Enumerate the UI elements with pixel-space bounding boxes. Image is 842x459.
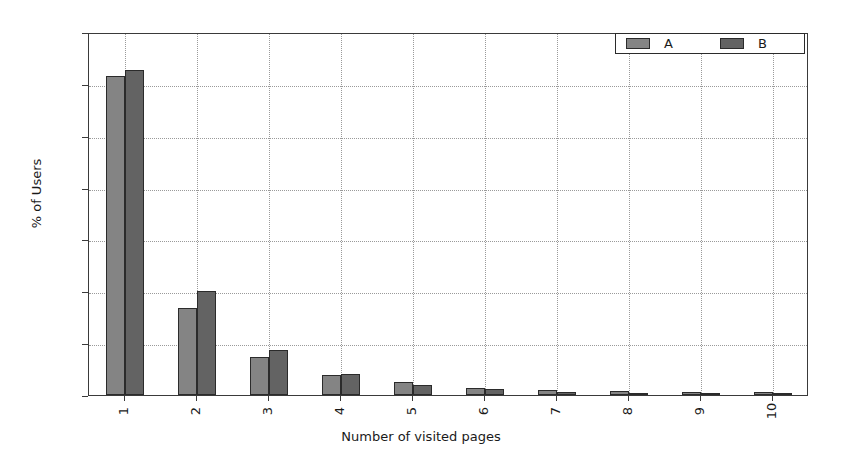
bar-a-6 bbox=[466, 388, 485, 395]
x-tick-label-10: 10 bbox=[765, 396, 779, 426]
bar-a-1 bbox=[106, 76, 125, 395]
bar-a-5 bbox=[394, 382, 413, 395]
bar-b-6 bbox=[485, 389, 504, 395]
gridline-vertical bbox=[701, 34, 702, 395]
plot-area bbox=[88, 33, 808, 396]
chart-figure: 010203040506070 % of Users 12345678910 N… bbox=[0, 0, 842, 459]
bar-a-3 bbox=[250, 357, 269, 395]
x-tick-label-1: 1 bbox=[117, 396, 131, 426]
bar-a-8 bbox=[610, 391, 629, 395]
bar-b-10 bbox=[773, 393, 792, 395]
chart-legend[interactable]: AB bbox=[615, 33, 805, 54]
gridline-vertical bbox=[557, 34, 558, 395]
gridline-vertical bbox=[341, 34, 342, 395]
gridline-vertical bbox=[269, 34, 270, 395]
bar-a-10 bbox=[754, 392, 773, 395]
x-tick-label-2: 2 bbox=[189, 396, 203, 426]
legend-label-b: B bbox=[758, 37, 767, 50]
x-tick-label-7: 7 bbox=[549, 396, 563, 426]
gridline-vertical bbox=[629, 34, 630, 395]
x-axis: 12345678910 bbox=[0, 396, 842, 459]
legend-entry-b[interactable]: B bbox=[710, 37, 804, 50]
legend-entry-a[interactable]: A bbox=[616, 37, 710, 50]
x-tick-label-3: 3 bbox=[261, 396, 275, 426]
y-axis: 010203040506070 bbox=[0, 0, 88, 459]
gridline-vertical bbox=[773, 34, 774, 395]
bar-b-5 bbox=[413, 385, 432, 395]
x-tick-label-5: 5 bbox=[405, 396, 419, 426]
bar-b-9 bbox=[701, 393, 720, 395]
x-tick-label-9: 9 bbox=[693, 396, 707, 426]
x-axis-title: Number of visited pages bbox=[0, 429, 842, 444]
bar-b-3 bbox=[269, 350, 288, 395]
legend-label-a: A bbox=[664, 37, 673, 50]
bar-a-9 bbox=[682, 392, 701, 395]
bar-a-7 bbox=[538, 390, 557, 395]
bar-a-2 bbox=[178, 308, 197, 395]
gridline-vertical bbox=[485, 34, 486, 395]
x-tick-label-6: 6 bbox=[477, 396, 491, 426]
bar-b-8 bbox=[629, 393, 648, 395]
legend-swatch-a-icon bbox=[626, 38, 650, 49]
bar-b-7 bbox=[557, 392, 576, 395]
x-tick-label-8: 8 bbox=[621, 396, 635, 426]
bar-b-2 bbox=[197, 291, 216, 395]
x-tick-label-4: 4 bbox=[333, 396, 347, 426]
bar-b-1 bbox=[125, 70, 144, 395]
gridline-vertical bbox=[413, 34, 414, 395]
y-axis-title: % of Users bbox=[29, 134, 44, 254]
legend-swatch-b-icon bbox=[720, 38, 744, 49]
bar-b-4 bbox=[341, 374, 360, 395]
bar-a-4 bbox=[322, 375, 341, 395]
